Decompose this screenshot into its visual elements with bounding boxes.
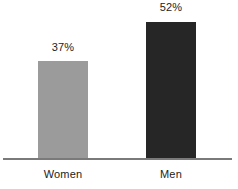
value-label-men: 52% <box>141 1 201 13</box>
category-label-men: Men <box>131 168 211 180</box>
bar-men <box>146 22 196 158</box>
plot-area <box>0 0 238 160</box>
x-axis-line <box>3 158 232 160</box>
category-label-women: Women <box>23 168 103 180</box>
bar-women <box>38 61 88 158</box>
bar-chart: 37% 52% Women Men <box>0 0 238 189</box>
value-label-women: 37% <box>33 41 93 53</box>
